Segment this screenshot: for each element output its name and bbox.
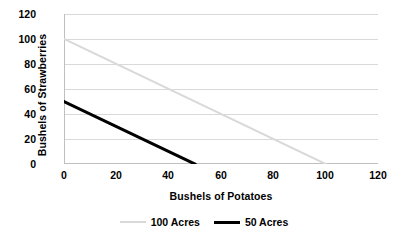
y-tick-label-20: 20 — [2, 134, 36, 145]
ppf-line-chart: Bushels of Strawberries 120 100 80 60 40… — [0, 0, 408, 247]
legend-swatch-icon-100-acres — [120, 221, 146, 223]
legend-item-100-acres[interactable]: 100 Acres — [120, 216, 200, 228]
plot-svg — [64, 14, 378, 164]
gridlines — [64, 15, 378, 140]
series-line-100-acres — [64, 39, 326, 164]
x-tick-label-40: 40 — [148, 170, 188, 181]
x-tick-label-60: 60 — [201, 170, 241, 181]
y-tick-label-120: 120 — [2, 9, 36, 20]
legend-item-50-acres[interactable]: 50 Acres — [214, 216, 288, 228]
series-line-50-acres — [64, 102, 195, 165]
y-tick-label-0: 0 — [2, 159, 36, 170]
y-tick-label-80: 80 — [2, 59, 36, 70]
x-tick-label-100: 100 — [305, 170, 345, 181]
x-tick-label-120: 120 — [358, 170, 398, 181]
chart-legend: 100 Acres 50 Acres — [0, 216, 408, 228]
legend-label-100-acres: 100 Acres — [151, 216, 200, 228]
y-tick-label-60: 60 — [2, 84, 36, 95]
legend-label-50-acres: 50 Acres — [245, 216, 288, 228]
x-tick-label-20: 20 — [96, 170, 136, 181]
x-axis-title: Bushels of Potatoes — [64, 190, 378, 202]
y-tick-label-100: 100 — [2, 34, 36, 45]
x-tick-label-80: 80 — [253, 170, 293, 181]
y-axis-title: Bushels of Strawberries — [36, 7, 48, 183]
plot-area — [64, 14, 378, 164]
legend-swatch-icon-50-acres — [214, 221, 240, 224]
x-tick-label-0: 0 — [44, 170, 84, 181]
y-tick-label-40: 40 — [2, 109, 36, 120]
